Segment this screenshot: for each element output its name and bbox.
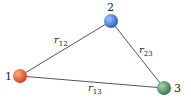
node-1 [13, 69, 27, 83]
triangle-diagram: 1 2 3 r12 r23 r13 [0, 0, 191, 98]
node-3 [157, 81, 171, 95]
edge-2-3 [111, 21, 164, 88]
node-1-label: 1 [5, 70, 12, 83]
edge-1-2 [20, 21, 111, 76]
edge-2-3-label: r23 [139, 44, 153, 58]
node-2 [104, 14, 118, 28]
diagram-canvas: 1 2 3 r12 r23 r13 [0, 0, 191, 98]
edge-1-3-label: r13 [88, 82, 102, 96]
node-2-label: 2 [107, 1, 114, 14]
edge-1-2-label: r12 [54, 34, 68, 48]
node-3-label: 3 [174, 82, 181, 95]
